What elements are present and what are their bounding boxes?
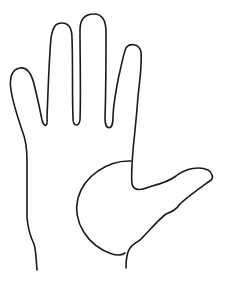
hand-outline-icon: [0, 0, 226, 284]
palm-semicircle: [77, 161, 131, 255]
hand-drawing-canvas: Line drawing of an open hand with five f…: [0, 0, 226, 284]
hand-outline: [10, 14, 212, 270]
